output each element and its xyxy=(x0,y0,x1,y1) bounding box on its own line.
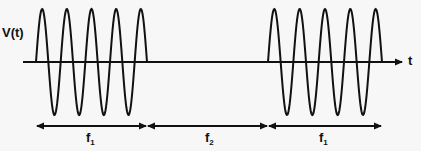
x-axis-label: t xyxy=(408,54,412,67)
segment-label-3: f1 xyxy=(319,131,328,147)
segment-label-1: f1 xyxy=(86,131,95,147)
frequency-burst-diagram: V(t) t f1 f2 f1 xyxy=(0,0,421,151)
segment-label-2: f2 xyxy=(205,131,214,147)
y-axis-label: V(t) xyxy=(2,26,24,39)
waveform-plot xyxy=(0,0,421,151)
